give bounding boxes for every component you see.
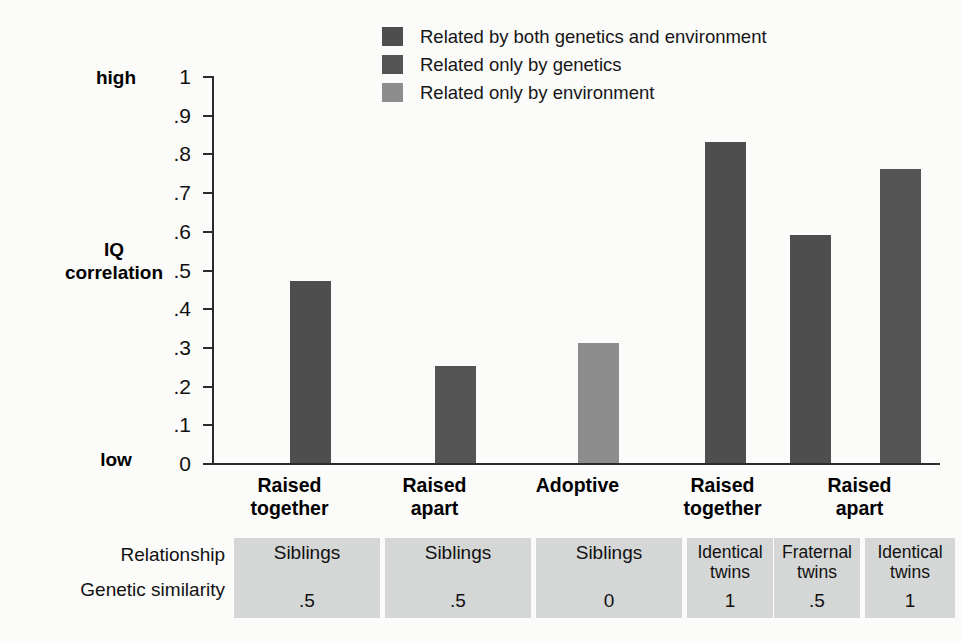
table-cell-relationship: Siblings <box>385 542 531 563</box>
y-tick-label-01: .1 <box>173 414 191 435</box>
table-row-label-genetic-similarity: Genetic similarity <box>20 579 225 601</box>
y-tick-06: .6 <box>203 231 212 233</box>
bar-identical-twins-raised-together <box>705 142 746 463</box>
legend-item-genetics: Related only by genetics <box>382 50 902 78</box>
legend-label-both: Related by both genetics and environment <box>420 27 767 46</box>
legend-label-genetics: Related only by genetics <box>420 55 622 74</box>
bar-fraternal-twins-raised-together <box>790 235 831 463</box>
table-cell-genetic-similarity: 1 <box>865 590 955 611</box>
bar-siblings-raised-together <box>290 281 331 463</box>
table-row-label-relationship: Relationship <box>20 544 225 566</box>
legend-swatch-both <box>382 27 403 46</box>
y-tick-01: .1 <box>203 424 212 426</box>
y-tick-label-03: .3 <box>173 336 191 357</box>
y-tick-0: 0 <box>203 463 212 465</box>
y-tick-label-0: 0 <box>179 453 191 474</box>
y-tick-07: .7 <box>203 192 212 194</box>
y-tick-label-04: .4 <box>173 298 191 319</box>
y-tick-05: .5 <box>203 270 212 272</box>
plot-area: 1 .9 .8 .7 .6 .5 .4 .3 .2 .1 0 <box>212 76 940 465</box>
table-cell-relationship: Identical twins <box>865 542 955 582</box>
y-tick-label-06: .6 <box>173 220 191 241</box>
chart-figure: Related by both genetics and environment… <box>0 0 961 643</box>
y-axis-line <box>212 76 214 465</box>
x-label-siblings-raised-apart: Raised apart <box>363 474 506 520</box>
y-tick-label-1: 1 <box>179 66 191 87</box>
y-tick-08: .8 <box>203 153 212 155</box>
table-cell-relationship: Identical twins <box>687 542 773 582</box>
y-tick-09: .9 <box>203 115 212 117</box>
annotation-table: Relationship Genetic similarity Siblings… <box>0 538 961 618</box>
y-tick-1: 1 <box>203 76 212 78</box>
y-tick-label-08: .8 <box>173 143 191 164</box>
x-label-adoptive: Adoptive <box>506 474 649 497</box>
table-cell-genetic-similarity: .5 <box>234 590 380 611</box>
x-label-twins-raised-apart: Raised apart <box>788 474 931 520</box>
table-cell-relationship: Siblings <box>234 542 380 563</box>
bar-siblings-raised-apart <box>435 366 476 463</box>
y-tick-label-05: .5 <box>173 259 191 280</box>
bar-identical-twins-raised-apart <box>880 169 921 463</box>
table-column-siblings-together: Siblings .5 <box>234 538 380 618</box>
x-label-siblings-raised-together: Raised together <box>218 474 361 520</box>
bar-adoptive-siblings <box>578 343 619 463</box>
table-column-siblings-apart: Siblings .5 <box>385 538 531 618</box>
axis-label-iq-correlation: IQ correlation <box>54 238 174 284</box>
table-cell-genetic-similarity: 1 <box>687 590 773 611</box>
x-label-twins-raised-together: Raised together <box>651 474 794 520</box>
axis-note-low: low <box>60 448 172 471</box>
table-cell-relationship: Siblings <box>536 542 682 563</box>
table-column-fraternal-twins-together: Fraternal twins .5 <box>774 538 860 618</box>
table-cell-genetic-similarity: 0 <box>536 590 682 611</box>
y-tick-02: .2 <box>203 386 212 388</box>
y-tick-04: .4 <box>203 308 212 310</box>
table-cell-genetic-similarity: .5 <box>385 590 531 611</box>
y-tick-label-09: .9 <box>173 104 191 125</box>
table-cell-genetic-similarity: .5 <box>774 590 860 611</box>
x-axis-line <box>212 463 940 465</box>
table-column-adoptive: Siblings 0 <box>536 538 682 618</box>
legend-swatch-genetics <box>382 55 403 74</box>
y-tick-label-07: .7 <box>173 182 191 203</box>
axis-note-high: high <box>60 66 172 89</box>
table-column-identical-twins-together: Identical twins 1 <box>687 538 773 618</box>
y-tick-03: .3 <box>203 347 212 349</box>
legend-item-both: Related by both genetics and environment <box>382 22 902 50</box>
table-cell-relationship: Fraternal twins <box>774 542 860 582</box>
table-column-identical-twins-apart: Identical twins 1 <box>865 538 955 618</box>
y-tick-label-02: .2 <box>173 375 191 396</box>
